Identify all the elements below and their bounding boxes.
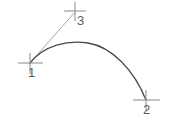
curved-arc xyxy=(30,42,146,100)
point-label-3: 3 xyxy=(77,14,84,27)
drawing-canvas: 1 2 3 xyxy=(0,0,173,125)
point-label-1: 1 xyxy=(28,66,35,79)
point-label-2: 2 xyxy=(143,103,150,116)
